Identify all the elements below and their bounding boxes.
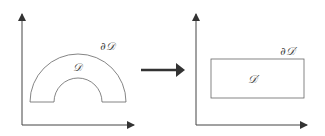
diagram-svg: ∂𝒟 𝒟 ∂𝒟′ 𝒟′ [0,0,325,136]
right-region-label: 𝒟′ [248,73,260,86]
right-boundary-label: ∂𝒟′ [280,45,298,58]
left-region-label: 𝒟 [73,61,84,74]
domain-mapping-diagram: ∂𝒟 𝒟 ∂𝒟′ 𝒟′ [0,0,325,136]
mapping-arrow-icon [141,63,185,77]
left-boundary-label: ∂𝒟 [100,40,117,53]
right-axes [196,14,307,125]
